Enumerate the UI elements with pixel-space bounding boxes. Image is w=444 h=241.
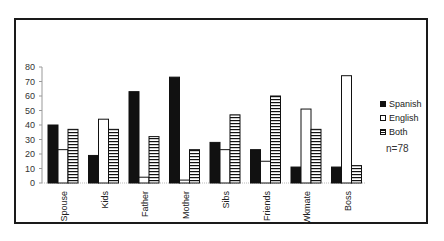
bar-english xyxy=(342,76,352,183)
bar-english xyxy=(99,119,109,183)
y-tick-label: 80 xyxy=(25,62,35,72)
legend-label: Both xyxy=(389,125,408,139)
x-category-label: Father xyxy=(140,191,150,217)
bar-spanish xyxy=(129,92,139,183)
bar-spanish xyxy=(251,150,261,183)
y-tick-label: 50 xyxy=(25,106,35,116)
y-tick-label: 30 xyxy=(25,135,35,145)
y-tick-label: 60 xyxy=(25,91,35,101)
bar-spanish xyxy=(89,155,99,183)
spanish-swatch-icon xyxy=(380,101,386,107)
bar-spanish xyxy=(48,125,58,183)
bar-both xyxy=(230,115,240,183)
x-category-label: Wkmate xyxy=(302,191,312,224)
bar-english xyxy=(220,150,230,183)
x-category-label: Boss xyxy=(343,191,353,212)
bar-chart: 01020304050607080 SpouseKidsFatherMother… xyxy=(0,0,444,241)
bar-both xyxy=(311,129,321,183)
sample-size-note: n=78 xyxy=(386,143,409,154)
y-tick-label: 0 xyxy=(30,178,35,188)
y-tick-label: 40 xyxy=(25,120,35,130)
both-swatch-icon xyxy=(380,129,386,135)
bar-both xyxy=(352,166,362,183)
category-labels: SpouseKidsFatherMotherSibsFriendsWkmateB… xyxy=(59,191,353,225)
legend: Spanish English Both xyxy=(380,97,422,139)
y-tick-label: 70 xyxy=(25,77,35,87)
bar-both xyxy=(109,129,119,183)
bar-both xyxy=(149,137,159,183)
bar-spanish xyxy=(170,77,180,183)
y-tick-label: 10 xyxy=(25,164,35,174)
legend-label: Spanish xyxy=(389,97,422,111)
x-category-label: Kids xyxy=(100,191,110,209)
bar-english xyxy=(261,161,271,183)
x-category-label: Spouse xyxy=(59,191,69,222)
legend-item-both: Both xyxy=(380,125,422,139)
bars xyxy=(48,76,362,183)
bar-both xyxy=(190,150,200,183)
bar-english xyxy=(301,109,311,183)
x-category-label: Sibs xyxy=(221,191,231,209)
legend-label: English xyxy=(389,111,419,125)
bar-english xyxy=(58,150,68,183)
legend-item-english: English xyxy=(380,111,422,125)
y-tick-label: 20 xyxy=(25,149,35,159)
bar-spanish xyxy=(291,167,301,183)
legend-item-spanish: Spanish xyxy=(380,97,422,111)
english-swatch-icon xyxy=(380,115,386,121)
x-category-label: Friends xyxy=(262,191,272,222)
bar-spanish xyxy=(332,167,342,183)
x-category-label: Mother xyxy=(181,191,191,219)
bar-both xyxy=(271,96,281,183)
bar-english xyxy=(139,177,149,183)
bar-both xyxy=(68,129,78,183)
bar-spanish xyxy=(210,142,220,183)
bar-english xyxy=(180,180,190,183)
